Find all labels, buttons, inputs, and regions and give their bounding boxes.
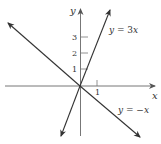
y-axis: y 1 2 3	[69, 5, 88, 136]
y-axis-label: y	[69, 5, 76, 16]
y-tick-label-1: 1	[72, 65, 77, 74]
label-y-equals-3x: y = 3x	[108, 25, 138, 35]
line-y-equals-neg-x: y = −x	[8, 23, 149, 137]
x-axis-label: x	[152, 90, 158, 101]
graph-svg: x 1 y 1 2 3 y = 3x y = −x	[0, 0, 161, 144]
label-y-equals-neg-x: y = −x	[117, 105, 149, 115]
x-tick-label-1: 1	[95, 88, 100, 97]
coordinate-plane-figure: x 1 y 1 2 3 y = 3x y = −x	[0, 0, 161, 144]
line-3x-upper	[80, 10, 110, 86]
line-neg-x-upper	[8, 23, 80, 86]
y-tick-label-2: 2	[72, 49, 77, 58]
line-3x-lower	[61, 86, 80, 136]
y-tick-label-3: 3	[72, 33, 77, 42]
